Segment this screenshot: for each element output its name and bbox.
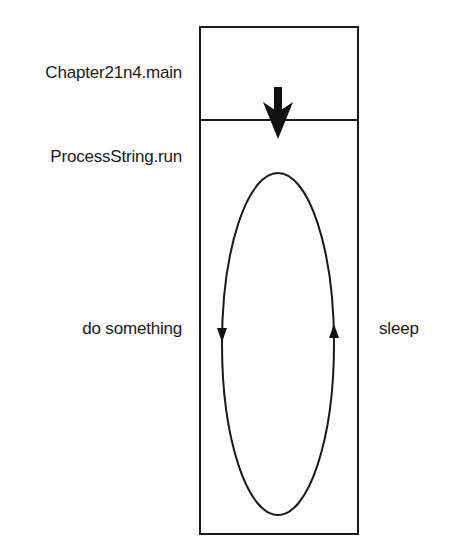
loop-arrow-down-icon: [217, 328, 227, 342]
thread-diagram: Chapter21n4.main ProcessString.run do so…: [0, 0, 450, 551]
loop-ellipse: [222, 173, 334, 515]
run-method-label: ProcessString.run: [50, 147, 182, 167]
call-arrow-icon: [263, 87, 293, 139]
loop-arrow-up-icon: [329, 324, 339, 338]
do-something-label: do something: [82, 319, 182, 339]
sleep-label: sleep: [379, 319, 419, 339]
main-method-label: Chapter21n4.main: [45, 63, 182, 83]
